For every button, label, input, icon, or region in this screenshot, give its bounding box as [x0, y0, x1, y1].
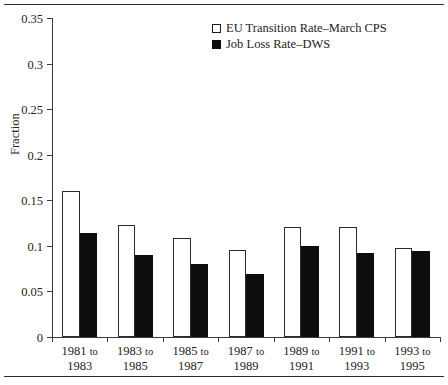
bar-eu-transition-rate	[173, 238, 191, 337]
x-axis-tick-label: 1981 to1983	[48, 344, 111, 373]
y-axis-tick-label: 0.2	[27, 149, 43, 162]
y-axis-tick-label: 0.1	[27, 241, 43, 254]
bar-eu-transition-rate	[284, 227, 302, 337]
y-axis-tick: 0.3	[47, 64, 52, 65]
chart-legend: EU Transition Rate–March CPSJob Loss Rat…	[212, 20, 387, 52]
bar-group	[173, 18, 208, 337]
bar-job-loss-rate	[191, 264, 209, 337]
y-axis-title: Fraction	[8, 113, 23, 155]
x-axis-tick	[440, 337, 441, 342]
y-axis-tick: 0.15	[47, 200, 52, 201]
y-axis-tick-label: 0.25	[21, 104, 43, 117]
x-axis-tick	[274, 337, 275, 342]
bar-eu-transition-rate	[62, 191, 80, 337]
y-axis-line	[52, 18, 53, 337]
bar-group	[229, 18, 264, 337]
y-axis-tick-label: 0.35	[21, 13, 43, 26]
x-axis-line	[52, 337, 440, 338]
y-axis-tick: 0.2	[47, 155, 52, 156]
x-axis-tick	[107, 337, 108, 342]
plot-area: 00.050.10.150.20.250.30.35 1981 to198319…	[52, 18, 440, 337]
bar-job-loss-rate	[357, 253, 375, 337]
y-axis-tick-label: 0.3	[27, 58, 43, 71]
x-axis-tick-label: 1989 to1991	[270, 344, 333, 373]
bar-job-loss-rate	[80, 233, 98, 337]
x-axis-tick-label: 1993 to1995	[381, 344, 444, 373]
legend-item: EU Transition Rate–March CPS	[212, 20, 387, 36]
bar-group	[118, 18, 153, 337]
bar-job-loss-rate	[301, 246, 319, 337]
x-axis-tick	[329, 337, 330, 342]
figure-bottom-rule	[4, 376, 444, 377]
x-axis-tick	[385, 337, 386, 342]
x-axis-tick	[218, 337, 219, 342]
figure-top-rule	[4, 4, 444, 5]
bar-eu-transition-rate	[118, 225, 136, 337]
y-axis-tick-label: 0.15	[21, 195, 43, 208]
bar-group	[62, 18, 97, 337]
bar-eu-transition-rate	[339, 227, 357, 337]
bar-group	[284, 18, 319, 337]
bar-job-loss-rate	[246, 274, 264, 337]
y-axis-tick-label: 0	[37, 332, 43, 345]
legend-item: Job Loss Rate–DWS	[212, 36, 387, 52]
legend-item-label: Job Loss Rate–DWS	[226, 36, 330, 52]
bar-group	[339, 18, 374, 337]
bar-job-loss-rate	[135, 255, 153, 337]
bar-group	[395, 18, 430, 337]
x-axis-tick-label: 1985 to1987	[159, 344, 222, 373]
bar-job-loss-rate	[412, 251, 430, 337]
x-axis-tick-label: 1991 to1993	[325, 344, 388, 373]
x-axis-tick	[52, 337, 53, 342]
legend-swatch-filled-icon	[212, 40, 221, 49]
bar-eu-transition-rate	[395, 248, 413, 337]
legend-item-label: EU Transition Rate–March CPS	[226, 20, 387, 36]
x-axis-tick-label: 1987 to1989	[214, 344, 277, 373]
y-axis-tick: 0.1	[47, 246, 52, 247]
y-axis-tick: 0.35	[47, 18, 52, 19]
y-axis-tick-label: 0.05	[21, 286, 43, 299]
bar-eu-transition-rate	[229, 250, 247, 337]
y-axis-tick: 0.25	[47, 109, 52, 110]
bar-chart-figure: Fraction 00.050.10.150.20.250.30.35 1981…	[0, 0, 448, 385]
x-axis-tick-label: 1983 to1985	[103, 344, 166, 373]
x-axis-tick	[163, 337, 164, 342]
legend-swatch-hollow-icon	[212, 24, 221, 33]
y-axis-tick: 0.05	[47, 291, 52, 292]
